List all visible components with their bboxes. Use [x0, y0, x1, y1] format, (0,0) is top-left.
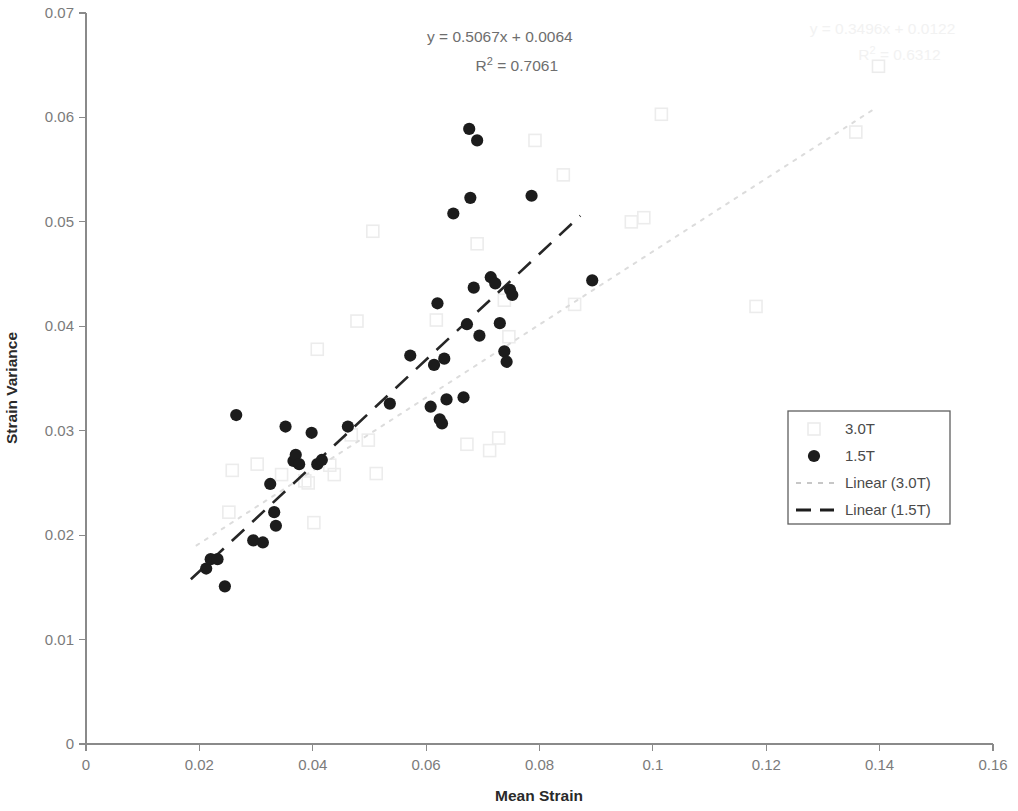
x-tick-label: 0.08: [525, 756, 554, 773]
x-axis-ticks: 00.020.040.060.080.10.120.140.16: [82, 744, 1008, 773]
data-point-1-5t: [498, 345, 510, 357]
data-point-3-0t: [503, 331, 515, 343]
y-axis-title: Strain Variance: [3, 332, 20, 444]
data-point-1-5t: [230, 409, 242, 421]
y-axis-ticks: 00.010.020.030.040.050.060.07: [45, 4, 86, 752]
x-tick-label: 0.16: [978, 756, 1007, 773]
data-point-3-0t: [367, 225, 379, 237]
data-point-3-0t: [484, 445, 496, 457]
data-point-1-5t: [506, 289, 518, 301]
data-point-1-5t: [463, 123, 475, 135]
scatter-chart: 00.010.020.030.040.050.060.07 00.020.040…: [0, 0, 1018, 811]
data-point-3-0t: [276, 469, 288, 481]
data-point-3-0t: [362, 434, 374, 446]
data-point-1-5t: [404, 349, 416, 361]
data-point-3-0t: [351, 315, 363, 327]
data-point-3-0t: [655, 108, 667, 120]
data-point-3-0t: [430, 314, 442, 326]
data-point-1-5t: [293, 458, 305, 470]
x-axis-title: Mean Strain: [495, 787, 583, 804]
plot-canvas: 00.010.020.030.040.050.060.07 00.020.040…: [0, 0, 1018, 811]
data-point-1-5t: [586, 274, 598, 286]
y-tick-label: 0.02: [45, 526, 74, 543]
annotation-r2-15t: R2 = 0.7061: [476, 55, 558, 74]
data-point-1-5t: [270, 520, 282, 532]
data-point-3-0t: [251, 458, 263, 470]
data-point-1-5t: [525, 190, 537, 202]
y-tick-label: 0.06: [45, 108, 74, 125]
data-point-1-5t: [440, 393, 452, 405]
series-1-5t-points: [200, 123, 598, 593]
legend-label-1[interactable]: 1.5T: [845, 447, 875, 464]
y-tick-label: 0.01: [45, 631, 74, 648]
data-point-1-5t: [461, 318, 473, 330]
y-tick-label: 0.04: [45, 317, 74, 334]
data-point-1-5t: [438, 353, 450, 365]
data-point-1-5t: [501, 356, 513, 368]
data-point-1-5t: [279, 420, 291, 432]
data-point-1-5t: [494, 317, 506, 329]
data-point-1-5t: [425, 401, 437, 413]
data-point-1-5t: [457, 391, 469, 403]
data-point-1-5t: [306, 427, 318, 439]
data-point-1-5t: [468, 282, 480, 294]
data-point-3-0t: [850, 126, 862, 138]
data-point-1-5t: [219, 580, 231, 592]
data-point-1-5t: [431, 297, 443, 309]
x-tick-label: 0.04: [298, 756, 327, 773]
equation-annotations: y = 0.5067x + 0.0064R2 = 0.7061y = 0.349…: [427, 20, 955, 75]
legend-label-2[interactable]: Linear (3.0T): [845, 474, 931, 491]
data-point-1-5t: [471, 134, 483, 146]
y-tick-label: 0.07: [45, 4, 74, 21]
data-point-1-5t: [489, 277, 501, 289]
data-point-1-5t: [257, 536, 269, 548]
data-point-3-0t: [223, 506, 235, 518]
legend-label-3[interactable]: Linear (1.5T): [845, 501, 931, 518]
trendline-1-5t: [191, 216, 580, 580]
data-point-3-0t: [557, 169, 569, 181]
data-point-3-0t: [750, 300, 762, 312]
x-tick-label: 0.14: [865, 756, 894, 773]
data-point-3-0t: [308, 517, 320, 529]
x-tick-label: 0.12: [752, 756, 781, 773]
data-point-3-0t: [569, 298, 581, 310]
data-point-1-5t: [211, 553, 223, 565]
annotation-eq-15t: y = 0.5067x + 0.0064: [427, 28, 573, 45]
data-point-3-0t: [471, 238, 483, 250]
data-point-1-5t: [264, 478, 276, 490]
data-point-1-5t: [473, 330, 485, 342]
data-point-1-5t: [316, 454, 328, 466]
data-point-1-5t: [268, 506, 280, 518]
data-point-1-5t: [447, 207, 459, 219]
data-point-1-5t: [436, 417, 448, 429]
data-point-3-0t: [311, 343, 323, 355]
annotation-eq-30t: y = 0.3496x + 0.0122: [810, 20, 956, 37]
y-tick-label: 0.05: [45, 213, 74, 230]
data-point-1-5t: [428, 359, 440, 371]
y-tick-label: 0.03: [45, 422, 74, 439]
data-point-3-0t: [529, 134, 541, 146]
x-tick-label: 0: [82, 756, 90, 773]
data-point-3-0t: [625, 216, 637, 228]
x-tick-label: 0.06: [412, 756, 441, 773]
chart-legend[interactable]: 3.0T1.5TLinear (3.0T)Linear (1.5T): [788, 411, 950, 524]
data-point-3-0t: [638, 212, 650, 224]
data-point-1-5t: [342, 420, 354, 432]
annotation-r2-30t: R2 = 0.6312: [858, 44, 940, 63]
data-point-1-5t: [464, 192, 476, 204]
legend-marker-1-5t: [808, 450, 820, 462]
data-point-3-0t: [493, 432, 505, 444]
data-point-3-0t: [328, 469, 340, 481]
x-tick-label: 0.1: [642, 756, 663, 773]
y-tick-label: 0: [66, 735, 74, 752]
data-point-3-0t: [226, 464, 238, 476]
x-tick-label: 0.02: [185, 756, 214, 773]
data-point-1-5t: [384, 397, 396, 409]
legend-label-0[interactable]: 3.0T: [845, 420, 875, 437]
trendline-1-5t-line: [191, 216, 580, 580]
data-point-3-0t: [370, 468, 382, 480]
data-point-3-0t: [461, 438, 473, 450]
